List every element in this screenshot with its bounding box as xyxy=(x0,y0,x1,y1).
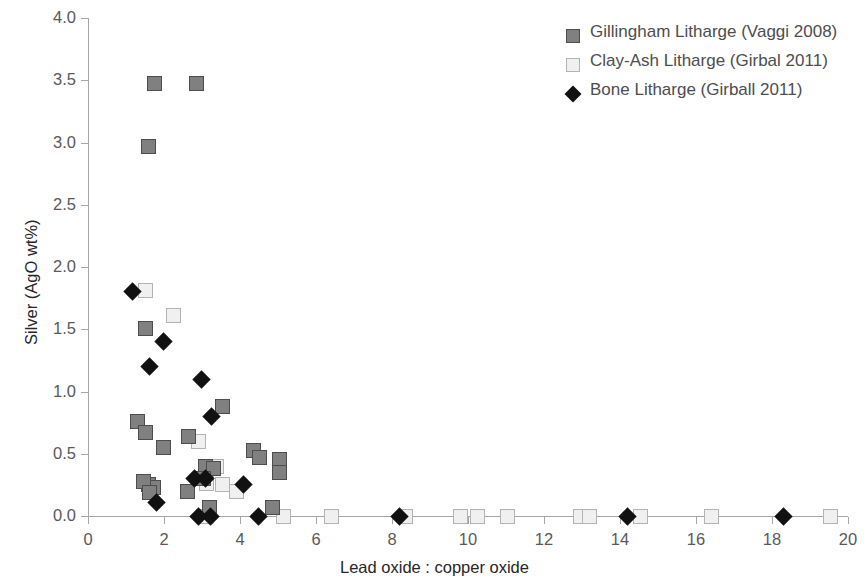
x-tick-label: 8 xyxy=(367,530,417,549)
y-tick-label: 1.0 xyxy=(28,382,76,401)
marker-bone xyxy=(197,469,215,487)
x-tick-mark xyxy=(848,517,849,524)
marker-gillingham xyxy=(272,452,287,467)
legend-marker-clay-ash-icon xyxy=(566,58,580,72)
marker-gillingham xyxy=(147,76,162,91)
x-tick-label: 16 xyxy=(671,530,721,549)
x-tick-label: 12 xyxy=(519,530,569,549)
marker-clay-ash xyxy=(215,477,230,492)
marker-gillingham xyxy=(272,465,287,480)
marker-gillingham xyxy=(138,321,153,336)
y-tick-label: 3.0 xyxy=(28,133,76,152)
marker-gillingham xyxy=(130,414,145,429)
y-tick-mark xyxy=(81,80,88,81)
marker-gillingham xyxy=(246,443,261,458)
legend-label: Bone Litharge (Girball 2011) xyxy=(590,80,802,100)
marker-gillingham xyxy=(215,399,230,414)
legend-marker-bone-icon xyxy=(565,86,582,103)
x-tick-mark xyxy=(772,517,773,524)
x-tick-mark xyxy=(620,517,621,524)
marker-gillingham xyxy=(265,500,280,515)
y-tick-label: 0.0 xyxy=(28,506,76,525)
marker-clay-ash xyxy=(138,283,153,298)
marker-clay-ash xyxy=(209,459,224,474)
y-tick-mark xyxy=(81,392,88,393)
marker-clay-ash xyxy=(191,434,206,449)
marker-gillingham xyxy=(180,484,195,499)
x-tick-label: 18 xyxy=(747,530,797,549)
marker-clay-ash xyxy=(229,484,244,499)
legend-label: Clay-Ash Litharge (Girbal 2011) xyxy=(590,51,828,71)
marker-clay-ash xyxy=(166,308,181,323)
marker-bone xyxy=(185,469,203,487)
x-tick-mark xyxy=(468,517,469,524)
marker-gillingham xyxy=(156,440,171,455)
x-tick-mark xyxy=(240,517,241,524)
marker-gillingham xyxy=(141,477,156,492)
marker-clay-ash xyxy=(199,476,214,491)
y-tick-label: 2.5 xyxy=(28,195,76,214)
x-tick-label: 10 xyxy=(443,530,493,549)
x-tick-mark xyxy=(164,517,165,524)
x-tick-mark xyxy=(544,517,545,524)
marker-bone xyxy=(154,332,172,350)
marker-bone xyxy=(140,357,158,375)
marker-gillingham xyxy=(181,429,196,444)
marker-gillingham xyxy=(202,500,217,515)
marker-bone xyxy=(235,476,253,494)
x-tick-label: 0 xyxy=(63,530,113,549)
y-tick-mark xyxy=(81,205,88,206)
y-tick-mark xyxy=(81,143,88,144)
marker-bone xyxy=(202,407,220,425)
y-tick-label: 3.5 xyxy=(28,70,76,89)
legend-label: Gillingham Litharge (Vaggi 2008) xyxy=(590,22,837,42)
marker-gillingham xyxy=(146,480,161,495)
marker-bone xyxy=(192,370,210,388)
marker-bone xyxy=(124,283,142,301)
marker-gillingham xyxy=(206,461,221,476)
marker-gillingham xyxy=(141,139,156,154)
y-tick-label: 0.5 xyxy=(28,444,76,463)
chart-root: 0.00.51.01.52.02.53.03.54.0 024681012141… xyxy=(0,0,864,585)
x-tick-label: 6 xyxy=(291,530,341,549)
y-tick-label: 4.0 xyxy=(28,8,76,27)
y-tick-mark xyxy=(81,454,88,455)
x-tick-label: 14 xyxy=(595,530,645,549)
x-tick-mark xyxy=(316,517,317,524)
y-axis-line xyxy=(88,18,89,517)
y-tick-mark xyxy=(81,18,88,19)
y-axis-title: Silver (AgO wt%) xyxy=(22,219,41,345)
x-tick-label: 4 xyxy=(215,530,265,549)
x-tick-mark xyxy=(696,517,697,524)
marker-gillingham xyxy=(189,76,204,91)
x-axis-title: Lead oxide : copper oxide xyxy=(340,558,529,577)
x-tick-label: 20 xyxy=(823,530,864,549)
x-tick-mark xyxy=(88,517,89,524)
y-tick-mark xyxy=(81,267,88,268)
marker-bone xyxy=(147,493,165,511)
y-tick-mark xyxy=(81,329,88,330)
marker-gillingham xyxy=(196,471,211,486)
marker-gillingham xyxy=(138,425,153,440)
marker-gillingham xyxy=(136,474,151,489)
y-tick-mark xyxy=(81,516,88,517)
marker-gillingham xyxy=(142,485,157,500)
x-tick-label: 2 xyxy=(139,530,189,549)
marker-gillingham xyxy=(198,459,213,474)
legend-marker-gillingham-icon xyxy=(566,29,580,43)
marker-gillingham xyxy=(252,450,267,465)
x-tick-mark xyxy=(392,517,393,524)
